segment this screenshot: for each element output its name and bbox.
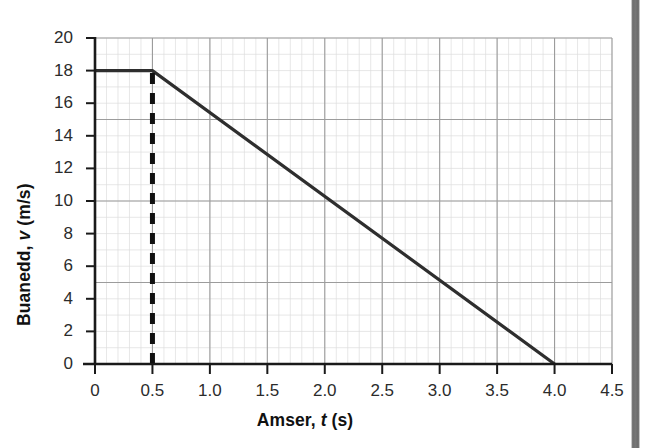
x-tick-label: 2.5 (359, 382, 405, 399)
y-tick-label: 4 (39, 290, 73, 307)
x-tick-label: 1.5 (244, 382, 290, 399)
y-tick-label: 0 (39, 355, 73, 372)
y-tick-label: 6 (39, 257, 73, 274)
y-tick-label: 20 (39, 29, 73, 46)
figure-page: 02468101214161820 00.51.01.52.02.53.03.5… (0, 0, 657, 448)
y-tick-label: 8 (39, 225, 73, 242)
velocity-time-chart: 02468101214161820 00.51.01.52.02.53.03.5… (0, 0, 631, 448)
x-tick-label: 4.5 (589, 382, 635, 399)
x-axis-title: Amser, t (s) (0, 410, 610, 431)
page-edge-artifact (631, 0, 640, 448)
y-axis-title: Buanedd, v (m/s) (14, 183, 35, 326)
axis-symbol: t (321, 410, 327, 430)
x-tick-label: 1.0 (187, 382, 233, 399)
x-tick-label: 3.5 (474, 382, 520, 399)
y-tick-label: 10 (39, 192, 73, 209)
x-tick-label: 3.0 (417, 382, 463, 399)
y-tick-label: 2 (39, 322, 73, 339)
x-tick-label: 2.0 (302, 382, 348, 399)
y-tick-label: 12 (39, 159, 73, 176)
axis-symbol: v (14, 231, 34, 241)
y-tick-label: 18 (39, 62, 73, 79)
x-tick-label: 0 (72, 382, 118, 399)
x-tick-label: 0.5 (129, 382, 175, 399)
y-tick-label: 14 (39, 127, 73, 144)
x-tick-label: 4.0 (532, 382, 578, 399)
y-tick-label: 16 (39, 94, 73, 111)
